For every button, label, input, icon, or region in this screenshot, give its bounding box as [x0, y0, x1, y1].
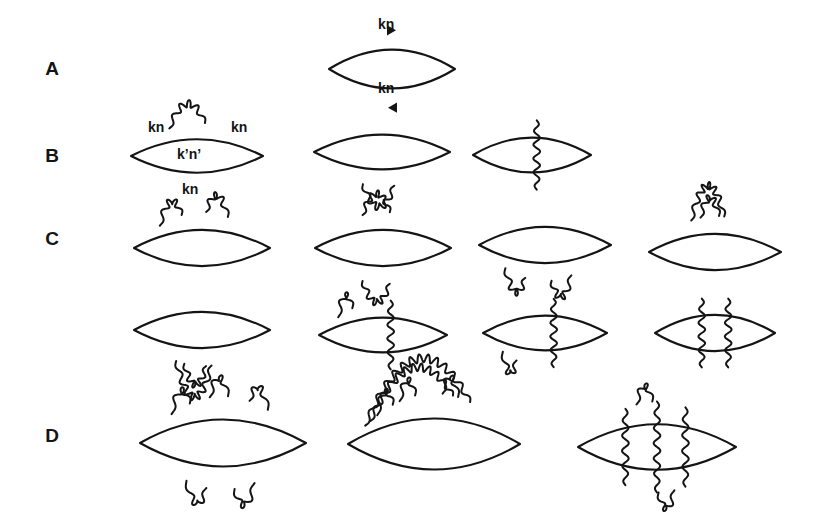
- bubble-bottom-photon: [314, 135, 450, 210]
- bubble-with-momentum-labels: knkn: [329, 16, 455, 113]
- row-label-c: C: [45, 228, 59, 249]
- bubble-three-top-two-bottom-photons: [140, 375, 306, 508]
- photon-wavy-line-3: [250, 386, 269, 410]
- momentum-label-1: kn: [378, 16, 394, 32]
- electron-loop-outline: [473, 138, 591, 173]
- electron-loop-outline: [479, 227, 611, 263]
- figure-container: AknknBknknk’n’knCD: [0, 0, 820, 523]
- photon-wavy-line-2: [700, 195, 720, 217]
- electron-loop-outline: [314, 135, 450, 170]
- momentum-label-1: kn: [148, 119, 164, 135]
- bubble-three-vertical-photons-plus-arcs: [578, 383, 736, 511]
- electron-loop-outline: [134, 230, 270, 266]
- momentum-label-2: kn: [378, 80, 394, 96]
- photon-wavy-line-1: [169, 100, 205, 128]
- electron-loop-outline: [315, 230, 451, 266]
- bubble-bottom-photon-and-vertical: [483, 299, 607, 374]
- bubble-nested-top-photons: [649, 182, 781, 270]
- feynman-diagram-canvas: AknknBknknk’n’knCD: [0, 0, 820, 523]
- bubble-nested-bottom-photons: [134, 312, 270, 400]
- bubble-nested-overarching-photons: [348, 354, 520, 469]
- photon-wavy-line-1: [504, 268, 525, 295]
- diagram-row-d: D: [45, 354, 736, 511]
- row-label-d: D: [45, 425, 59, 446]
- photon-wavy-line-1: [365, 354, 470, 425]
- photon-wavy-line-1: [502, 352, 517, 374]
- photon-wavy-line-2: [387, 301, 394, 370]
- electron-loop-outline: [319, 318, 447, 353]
- bubble-two-vertical-photons: [655, 299, 775, 368]
- photon-wavy-line-2: [370, 364, 453, 421]
- row-label-b: B: [45, 145, 59, 166]
- photon-wavy-line-1: [172, 387, 191, 414]
- photon-wavy-line-4: [186, 481, 207, 505]
- photon-wavy-line-4: [636, 383, 653, 404]
- photon-wavy-line-3: [377, 389, 393, 416]
- photon-wavy-line-1: [160, 199, 183, 225]
- momentum-label-3: k’n’: [177, 146, 201, 162]
- photon-wavy-line-2: [725, 299, 732, 368]
- bubble-vertical-photon: [473, 120, 591, 189]
- photon-wavy-line-2: [362, 281, 390, 305]
- photon-wavy-line-5: [658, 490, 675, 511]
- diagram-row-c: C: [45, 182, 781, 400]
- photon-wavy-line-1: [698, 299, 705, 368]
- diagram-row-b: Bknknk’n’kn: [45, 100, 591, 210]
- electron-loop-outline: [655, 315, 775, 351]
- photon-wavy-line-1: [533, 120, 540, 189]
- photon-wavy-line-4: [400, 377, 416, 401]
- photon-wavy-line-1: [622, 409, 629, 486]
- row-label-a: A: [45, 58, 59, 79]
- momentum-arrow-bottom: [388, 103, 397, 113]
- photon-wavy-line-5: [443, 376, 459, 397]
- photon-wavy-line-2: [206, 192, 229, 217]
- electron-loop-outline: [134, 312, 270, 348]
- bubble-top-photon-labeled: knknk’n’kn: [131, 100, 263, 197]
- photon-wavy-line-1: [338, 292, 353, 317]
- diagram-row-a: Aknkn: [45, 16, 455, 113]
- photon-wavy-line-2: [551, 275, 572, 299]
- momentum-label-4: kn: [182, 181, 198, 197]
- photon-wavy-line-5: [234, 483, 255, 508]
- electron-loop-outline: [140, 420, 306, 467]
- photon-wavy-line-2: [550, 299, 557, 367]
- electron-loop-outline: [483, 316, 607, 351]
- momentum-label-2: kn: [231, 119, 247, 135]
- photon-wavy-line-2: [654, 401, 661, 492]
- electron-loop-outline: [649, 234, 781, 270]
- photon-wavy-line-3: [682, 407, 689, 486]
- electron-loop-outline: [348, 419, 520, 470]
- bubble-two-top-photons: [134, 192, 270, 266]
- photon-wavy-line-2: [210, 375, 229, 397]
- bubble-two-bottom-photons: [479, 227, 611, 299]
